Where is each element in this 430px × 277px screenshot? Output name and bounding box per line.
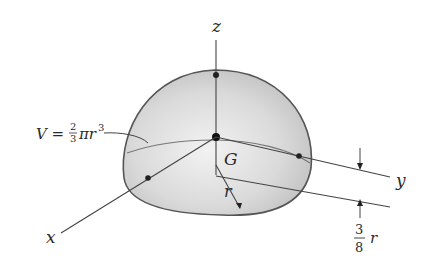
z-axis-label: z [211,16,222,36]
volume-frac-num: 2 [70,121,76,132]
centroid-label: G [224,149,238,169]
volume-rest: πr [78,125,97,143]
volume-frac-den: 3 [70,133,76,144]
radius-label: r [224,182,233,201]
x-axis-label: x [46,227,56,247]
offset-frac-num: 3 [355,222,363,237]
y-surface-point [296,153,302,159]
offset-frac-den: 8 [355,240,363,255]
hemisphere-diagram: z x y G r V = 2 3 πr 3 3 8 r [0,0,430,277]
dim-arrowhead-top [357,163,363,170]
hemisphere-body [123,70,311,215]
top-point [213,72,219,78]
offset-var: r [370,229,378,247]
volume-lhs: V = [36,125,64,143]
volume-exponent: 3 [98,122,104,133]
x-surface-point [145,175,151,181]
y-axis-label: y [395,170,406,190]
